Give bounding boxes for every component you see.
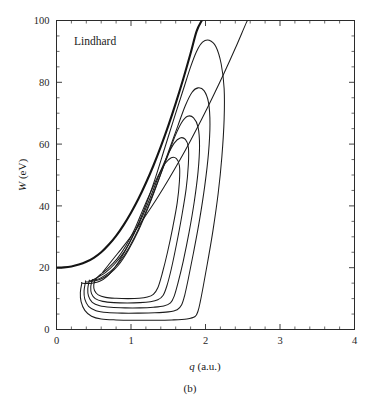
y-tick-label: 60 [39,139,50,150]
svg-text:q (a.u.): q (a.u.) [189,360,221,373]
svg-text:W (eV): W (eV) [16,159,29,191]
y-tick-label: 80 [39,77,50,88]
x-tick-label: 4 [352,335,358,346]
y-tick-label: 0 [44,324,49,335]
x-tick-label: 3 [277,335,282,346]
y-axis-title: W (eV) [16,159,29,191]
x-tick-label: 0 [54,335,59,346]
x-tick-label: 2 [203,335,208,346]
x-axis-title: q (a.u.) [189,360,221,373]
lindhard-contour-chart: 01234 020406080100 Lindhard q (a.u.) W (… [0,0,380,401]
plot-annotation-lindhard: Lindhard [74,35,116,47]
figure-panel: 01234 020406080100 Lindhard q (a.u.) W (… [0,0,380,401]
y-tick-label: 20 [39,262,50,273]
y-tick-label: 100 [34,15,50,26]
y-tick-label: 40 [39,201,50,212]
x-axis-units: (a.u.) [198,360,222,373]
x-tick-label: 1 [128,335,133,346]
y-axis-units: (eV) [16,159,29,179]
figure-caption: (b) [184,382,197,395]
